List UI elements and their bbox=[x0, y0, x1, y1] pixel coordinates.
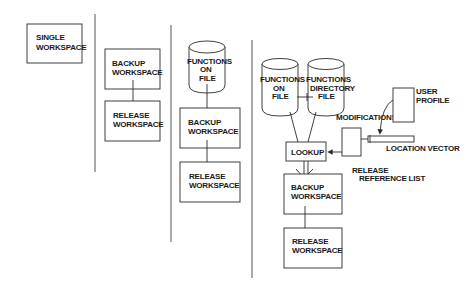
user-profile-box bbox=[393, 88, 414, 122]
release-workspace-label-1: RELEASE bbox=[292, 237, 329, 246]
release-reference-list-label-2: REFERENCE LIST bbox=[359, 174, 425, 183]
functions-on-file-label-3: FILE bbox=[199, 74, 216, 83]
single-workspace-label-1: SINGLE bbox=[36, 33, 65, 42]
modifications-label: MODIFICATIONS bbox=[336, 113, 398, 122]
user-profile-label-2: PROFILE bbox=[416, 96, 450, 105]
backup-workspace-label-1: BACKUP bbox=[112, 59, 146, 68]
release-workspace-label-2: WORKSPACE bbox=[292, 246, 343, 255]
release-workspace-label-2: WORKSPACE bbox=[113, 120, 164, 129]
backup-workspace-label-1: BACKUP bbox=[291, 183, 325, 192]
lookup-label: LOOKUP bbox=[291, 148, 325, 157]
user-profile-label-1: USER bbox=[416, 87, 438, 96]
backup-workspace-label-2: WORKSPACE bbox=[188, 127, 239, 136]
file-to-lookup-line bbox=[290, 112, 298, 142]
functions-on-file-label-2: ON bbox=[200, 65, 212, 74]
functions-on-file-label-1: FUNCTIONS bbox=[260, 75, 306, 84]
cylinder-1-top bbox=[262, 59, 298, 70]
release-reference-list-box bbox=[342, 128, 361, 156]
panel-2: BACKUP WORKSPACE RELEASE WORKSPACE bbox=[105, 49, 164, 141]
release-workspace-label-1: RELEASE bbox=[113, 111, 150, 120]
directory-to-lookup-line bbox=[308, 112, 316, 142]
backup-workspace-label-2: WORKSPACE bbox=[112, 68, 163, 77]
panel-3: FUNCTIONS ON FILE BACKUP WORKSPACE RELEA… bbox=[180, 41, 240, 202]
backup-workspace-label-2: WORKSPACE bbox=[291, 192, 342, 201]
location-vector-bar bbox=[368, 136, 414, 142]
panel-4: FUNCTIONS ON FILE FUNCTIONS DIRECTORY FI… bbox=[260, 59, 460, 269]
cylinder-2-top bbox=[308, 59, 344, 70]
panel-1: SINGLE WORKSPACE bbox=[27, 24, 87, 63]
functions-directory-file-label-3: FILE bbox=[318, 92, 335, 101]
backup-workspace-label-1: BACKUP bbox=[188, 118, 222, 127]
functions-on-file-label-3: FILE bbox=[272, 92, 289, 101]
release-workspace-label-2: WORKSPACE bbox=[189, 181, 240, 190]
location-vector-label: LOCATION VECTOR bbox=[386, 144, 460, 153]
cylinder-top bbox=[189, 41, 225, 53]
workspace-evolution-diagram: SINGLE WORKSPACE BACKUP WORKSPACE RELEAS… bbox=[0, 0, 472, 294]
single-workspace-label-2: WORKSPACE bbox=[36, 43, 87, 52]
release-workspace-label-1: RELEASE bbox=[189, 172, 226, 181]
functions-directory-file-label-1: FUNCTIONS bbox=[306, 75, 352, 84]
